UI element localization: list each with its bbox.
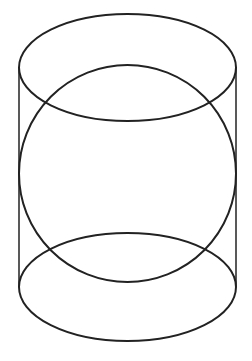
cylinder-top-ellipse (19, 14, 236, 121)
cylinder-bottom-ellipse (19, 233, 236, 341)
cylinder-sphere-diagram (0, 0, 252, 361)
